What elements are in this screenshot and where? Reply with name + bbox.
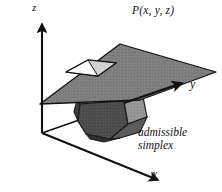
figure-canvas: z y x P(x, y, z) admissiblesimplex: [0, 0, 222, 192]
admissible-simplex-label-line1: admissible: [138, 126, 187, 138]
plane-surface-with-hole: [40, 44, 216, 104]
admissible-simplex-label: admissiblesimplex: [138, 126, 187, 151]
admissible-simplex-label-line2: simplex: [138, 139, 187, 151]
y-axis-label: y: [190, 78, 195, 91]
plane-label: P(x, y, z): [132, 4, 174, 16]
z-axis-label: z: [32, 2, 36, 14]
plane-P: [40, 44, 216, 104]
x-axis-label: x: [152, 168, 157, 181]
figure-svg: [0, 0, 222, 192]
